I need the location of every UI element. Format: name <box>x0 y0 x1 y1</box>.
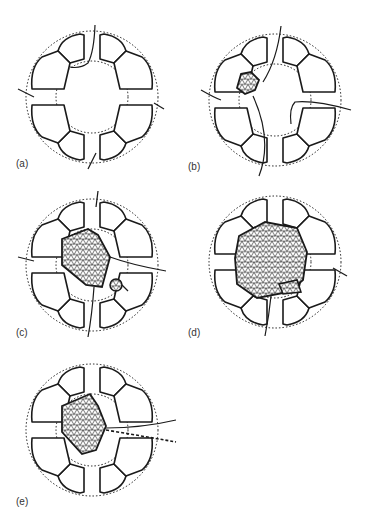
mass-medium <box>62 229 110 287</box>
figure-canvas <box>0 0 365 529</box>
panel-label-b: (b) <box>188 161 200 172</box>
panel-a <box>18 25 164 169</box>
mass-medium <box>62 394 106 454</box>
panel-e <box>26 364 176 496</box>
panel-label-d: (d) <box>188 327 200 338</box>
panel-label-c: (c) <box>16 327 28 338</box>
panel-c <box>18 191 166 337</box>
panel-d <box>209 196 347 336</box>
mass-small <box>237 72 259 94</box>
mass-small <box>110 279 122 291</box>
panel-b <box>201 26 351 176</box>
panel-label-a: (a) <box>16 158 28 169</box>
panel-label-e: (e) <box>16 496 28 507</box>
